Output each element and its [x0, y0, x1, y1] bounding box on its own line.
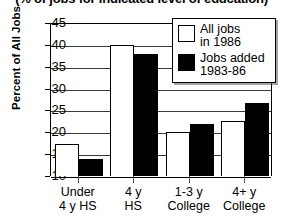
- legend-label-line2: 1983-86: [200, 65, 265, 78]
- x-tick-label-line1: 1-3 y: [175, 185, 203, 199]
- bar: [110, 45, 134, 176]
- bar: [134, 54, 158, 176]
- y-axis-title: Percent of All Jobs: [10, 0, 22, 118]
- bar: [79, 159, 103, 176]
- x-tick-label: 1-3 yCollege: [168, 185, 210, 213]
- legend-label: Jobs added1983-86: [200, 52, 265, 78]
- x-tick-label: Under4 y HS: [59, 185, 97, 213]
- legend-item: Jobs added1983-86: [178, 52, 272, 78]
- bar: [166, 132, 190, 176]
- x-tick-mark: [189, 176, 190, 183]
- bar: [245, 103, 269, 176]
- legend-label-line1: All jobs: [200, 22, 240, 36]
- legend-swatch-white: [178, 25, 195, 42]
- chart-legend: All jobsin 1986Jobs added1983-86: [172, 18, 276, 83]
- bar: [221, 121, 245, 176]
- x-tick-label-line2: HS: [125, 199, 142, 213]
- chart-title: (% of jobs for indicated level of educat…: [0, 0, 283, 6]
- y-tick-mark-30: [45, 89, 50, 90]
- legend-label: All jobsin 1986: [200, 23, 241, 49]
- y-tick-mark-35: [45, 67, 50, 68]
- bar-group: [107, 24, 163, 176]
- x-tick-mark: [244, 176, 245, 183]
- x-tick-label-line2: College: [223, 199, 265, 213]
- legend-label-line1: Jobs added: [200, 51, 265, 65]
- legend-swatch-black: [178, 54, 195, 71]
- y-tick-mark-10: [45, 176, 50, 177]
- y-tick-mark-20: [45, 132, 50, 133]
- x-tick-label: 4 yHS: [125, 185, 142, 213]
- legend-item: All jobsin 1986: [178, 23, 272, 49]
- x-tick-label-line2: College: [168, 199, 210, 213]
- x-tick-mark: [133, 176, 134, 183]
- x-tick-label-line1: 4 y: [125, 185, 142, 199]
- y-tick-mark-40: [45, 45, 50, 46]
- x-tick-label-line1: Under: [61, 185, 95, 199]
- x-tick-label-line1: 4+ y: [232, 185, 256, 199]
- x-tick-mark: [78, 176, 79, 183]
- bar-chart: (% of jobs for indicated level of educat…: [0, 0, 283, 221]
- x-tick-label-line2: 4 y HS: [59, 199, 97, 213]
- x-tick-label: 4+ yCollege: [223, 185, 265, 213]
- gridline-10: [51, 177, 271, 178]
- y-tick-mark-45: [45, 23, 50, 24]
- bar: [55, 144, 79, 176]
- y-tick-mark-15: [45, 154, 50, 155]
- legend-label-line2: in 1986: [200, 36, 241, 49]
- bar: [190, 124, 214, 176]
- y-tick-mark-25: [45, 110, 50, 111]
